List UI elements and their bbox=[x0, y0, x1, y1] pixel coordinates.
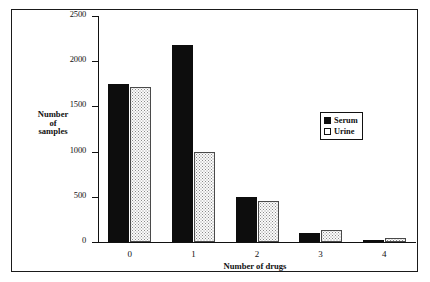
y-tick-mark bbox=[92, 242, 99, 243]
y-axis-title-line-3: samples bbox=[26, 127, 80, 136]
bar-urine-3 bbox=[321, 230, 342, 242]
y-tick-label: 0 bbox=[40, 236, 92, 246]
legend-label-serum: Serum bbox=[334, 116, 358, 125]
x-axis-line bbox=[98, 242, 416, 243]
y-tick-label-text: 2500 bbox=[40, 10, 86, 19]
legend-label-urine: Urine bbox=[334, 127, 354, 136]
bar-serum-1 bbox=[172, 45, 193, 242]
bar-serum-0 bbox=[108, 84, 129, 242]
y-tick-label: 2000 bbox=[40, 55, 92, 65]
y-tick-label-text: 0 bbox=[40, 236, 86, 245]
legend-swatch-urine-icon bbox=[324, 128, 331, 135]
bar-serum-3 bbox=[299, 233, 320, 242]
x-tick-label-2: 2 bbox=[242, 249, 272, 259]
y-axis-title: Number of samples bbox=[26, 110, 80, 136]
plot-area: 05001000150020002500 Number of samples 0… bbox=[0, 0, 430, 282]
bar-chart-figure: 05001000150020002500 Number of samples 0… bbox=[0, 0, 430, 282]
legend-item-urine: Urine bbox=[324, 126, 358, 136]
bars-layer bbox=[98, 16, 416, 242]
bar-serum-2 bbox=[236, 197, 257, 242]
x-tick-label-3: 3 bbox=[306, 249, 336, 259]
legend-swatch-serum-icon bbox=[324, 117, 331, 124]
legend-item-serum: Serum bbox=[324, 116, 358, 126]
y-tick-label: 1000 bbox=[40, 146, 92, 156]
y-tick-label: 2500 bbox=[40, 10, 92, 20]
bar-urine-1 bbox=[194, 152, 215, 242]
x-axis-title: Number of drugs bbox=[160, 261, 350, 271]
bar-urine-2 bbox=[258, 201, 279, 242]
legend: Serum Urine bbox=[320, 112, 363, 140]
y-tick-label-text: 2000 bbox=[40, 55, 86, 64]
y-tick-label: 500 bbox=[40, 191, 92, 201]
bar-serum-4 bbox=[363, 240, 384, 242]
y-tick-label-text: 1000 bbox=[40, 146, 86, 155]
x-tick-label-0: 0 bbox=[115, 249, 145, 259]
x-tick-label-1: 1 bbox=[178, 249, 208, 259]
bar-urine-4 bbox=[385, 238, 406, 242]
bar-urine-0 bbox=[130, 87, 151, 242]
y-tick-label-text: 500 bbox=[40, 191, 86, 200]
x-tick-label-4: 4 bbox=[369, 249, 399, 259]
